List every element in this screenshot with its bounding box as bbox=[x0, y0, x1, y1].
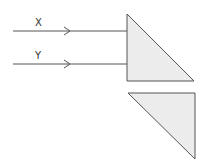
ray-x-label: X bbox=[35, 17, 42, 28]
ray-y-label: Y bbox=[34, 50, 42, 61]
prism-diagram: X Y bbox=[0, 0, 207, 166]
upper-prism bbox=[127, 14, 194, 81]
lower-prism bbox=[128, 93, 195, 159]
ray-y: Y bbox=[13, 50, 127, 68]
ray-x: X bbox=[13, 17, 127, 35]
